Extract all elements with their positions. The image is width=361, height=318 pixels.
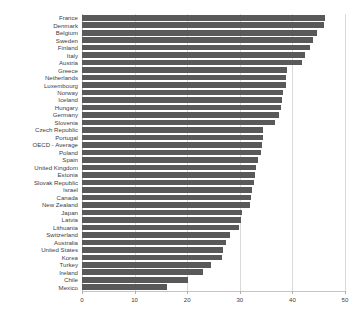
bar-united-kingdom[interactable] — [82, 165, 256, 171]
y-axis-tick-label: Iceland — [0, 96, 78, 103]
bar-portugal[interactable] — [82, 135, 263, 141]
bar-fill — [82, 262, 211, 268]
x-axis-tick — [82, 291, 83, 294]
y-axis-tick-label: France — [0, 14, 78, 21]
y-axis-tick-label: Slovak Republic — [0, 179, 78, 186]
bar-netherlands[interactable] — [82, 75, 286, 81]
bars-group — [82, 14, 345, 291]
y-axis-tick-label: Germany — [0, 111, 78, 118]
bar-spain[interactable] — [82, 157, 258, 163]
y-axis-tick-label: Sweden — [0, 37, 78, 44]
bar-israel[interactable] — [82, 187, 252, 193]
y-axis-tick-label: Chile — [0, 276, 78, 283]
y-axis-tick-label: Czech Republic — [0, 126, 78, 133]
bar-luxembourg[interactable] — [82, 82, 286, 88]
bar-greece[interactable] — [82, 67, 287, 73]
y-axis-tick-label: Finland — [0, 44, 78, 51]
bar-australia[interactable] — [82, 240, 226, 246]
bar-fill — [82, 120, 275, 126]
bar-fill — [82, 217, 241, 223]
bar-fill — [82, 30, 317, 36]
bar-denmark[interactable] — [82, 22, 324, 28]
plot-area — [82, 14, 345, 291]
bar-chile[interactable] — [82, 277, 188, 283]
bar-fill — [82, 45, 310, 51]
y-axis-tick-label: Austria — [0, 59, 78, 66]
y-axis-tick-label: Italy — [0, 52, 78, 59]
bar-iceland[interactable] — [82, 97, 282, 103]
bar-korea[interactable] — [82, 255, 222, 261]
y-axis-tick-label: Australia — [0, 239, 78, 246]
bar-fill — [82, 67, 287, 73]
bar-germany[interactable] — [82, 112, 279, 118]
bar-fill — [82, 105, 281, 111]
y-axis-tick-label: Luxembourg — [0, 82, 78, 89]
bar-japan[interactable] — [82, 210, 242, 216]
y-axis-tick-label: Ireland — [0, 269, 78, 276]
bar-france[interactable] — [82, 15, 325, 21]
bar-fill — [82, 60, 302, 66]
x-axis-tick — [135, 291, 136, 294]
bar-austria[interactable] — [82, 60, 302, 66]
bar-sweden[interactable] — [82, 37, 313, 43]
bar-fill — [82, 90, 283, 96]
bar-new-zealand[interactable] — [82, 202, 250, 208]
x-axis-tick-label: 10 — [131, 296, 138, 304]
bar-lithuania[interactable] — [82, 225, 239, 231]
bar-finland[interactable] — [82, 45, 310, 51]
x-axis-tick — [292, 291, 293, 294]
bar-united-states[interactable] — [82, 247, 223, 253]
y-axis-tick-label: Mexico — [0, 284, 78, 291]
bar-estonia[interactable] — [82, 172, 255, 178]
bar-fill — [82, 277, 188, 283]
y-axis-tick-label: Lithuania — [0, 224, 78, 231]
bar-switzerland[interactable] — [82, 232, 230, 238]
bar-fill — [82, 15, 325, 21]
bar-turkey[interactable] — [82, 262, 211, 268]
bar-fill — [82, 52, 305, 58]
y-axis-tick-label: Netherlands — [0, 74, 78, 81]
bar-canada[interactable] — [82, 195, 251, 201]
bar-italy[interactable] — [82, 52, 305, 58]
y-axis-tick-label: Greece — [0, 67, 78, 74]
bar-belgium[interactable] — [82, 30, 317, 36]
y-axis-tick-label: Latvia — [0, 216, 78, 223]
bar-oecd-average[interactable] — [82, 142, 262, 148]
bar-fill — [82, 157, 258, 163]
x-axis-tick-label: 0 — [80, 296, 83, 304]
x-axis-tick-label: 50 — [342, 296, 349, 304]
bar-norway[interactable] — [82, 90, 283, 96]
y-axis-tick-label: Slovenia — [0, 119, 78, 126]
x-axis-line — [82, 291, 345, 292]
bar-poland[interactable] — [82, 150, 261, 156]
y-axis-tick-label: Canada — [0, 194, 78, 201]
y-axis-tick-label: OECD - Average — [0, 141, 78, 148]
y-axis-tick-label: Israel — [0, 186, 78, 193]
bar-mexico[interactable] — [82, 284, 167, 290]
x-axis-tick-label: 30 — [236, 296, 243, 304]
bar-fill — [82, 150, 261, 156]
y-axis-tick-label: Spain — [0, 156, 78, 163]
bar-fill — [82, 172, 255, 178]
y-axis-tick-label: Turkey — [0, 261, 78, 268]
bar-fill — [82, 82, 286, 88]
bar-fill — [82, 269, 203, 275]
bar-fill — [82, 187, 252, 193]
bar-fill — [82, 180, 254, 186]
bar-fill — [82, 232, 230, 238]
bar-latvia[interactable] — [82, 217, 241, 223]
bar-slovenia[interactable] — [82, 120, 275, 126]
bar-ireland[interactable] — [82, 269, 203, 275]
bar-fill — [82, 240, 226, 246]
x-axis-tick — [240, 291, 241, 294]
gridline-50 — [345, 14, 346, 291]
bar-fill — [82, 247, 223, 253]
bar-czech-republic[interactable] — [82, 127, 263, 133]
bar-fill — [82, 142, 262, 148]
y-axis-tick-label: Norway — [0, 89, 78, 96]
bar-hungary[interactable] — [82, 105, 281, 111]
bar-slovak-republic[interactable] — [82, 180, 254, 186]
x-axis-tick-label: 20 — [184, 296, 191, 304]
y-axis-tick-label: Belgium — [0, 29, 78, 36]
bar-fill — [82, 195, 251, 201]
